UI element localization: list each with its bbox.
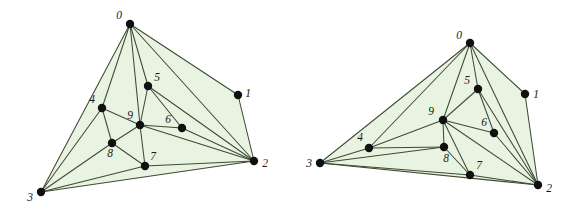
graph-vertex-label-1: 1 <box>245 87 251 99</box>
graph-vertex-label-2: 2 <box>546 182 552 194</box>
graph-vertex-label-1: 1 <box>533 88 539 100</box>
graph-vertex-9 <box>136 121 144 129</box>
graph-vertex-label-8: 8 <box>443 152 449 164</box>
graph-vertex-label-2: 2 <box>262 157 268 169</box>
graph-vertex-5 <box>144 82 152 90</box>
graph-vertex-label-0: 0 <box>116 9 122 21</box>
graph-vertex-label-6: 6 <box>481 116 487 128</box>
graph-vertex-2 <box>250 157 258 165</box>
graph-vertex-label-6: 6 <box>165 113 171 125</box>
right-graph: 0123456789 <box>305 29 552 194</box>
graph-vertex-1 <box>521 90 529 98</box>
graph-vertex-7 <box>141 162 149 170</box>
graph-vertex-label-9: 9 <box>428 105 434 117</box>
graph-vertex-2 <box>534 181 542 189</box>
graph-vertex-0 <box>466 39 474 47</box>
graph-vertex-3 <box>316 159 324 167</box>
graph-vertex-label-4: 4 <box>89 93 95 105</box>
graph-drawing-svg: 01234567890123456789 <box>0 0 581 210</box>
graph-vertex-label-5: 5 <box>154 71 160 83</box>
graph-vertex-label-5: 5 <box>464 74 470 86</box>
graph-vertex-label-0: 0 <box>456 29 462 41</box>
graph-vertex-label-4: 4 <box>357 131 363 143</box>
graph-vertex-9 <box>439 116 447 124</box>
graph-vertex-label-9: 9 <box>127 109 133 121</box>
graph-vertex-6 <box>178 124 186 132</box>
figure-canvas: 01234567890123456789 <box>0 0 581 210</box>
graph-vertex-4 <box>365 144 373 152</box>
graph-vertex-3 <box>37 188 45 196</box>
graph-vertex-0 <box>126 20 134 28</box>
graph-vertex-5 <box>474 85 482 93</box>
graph-vertex-label-3: 3 <box>305 157 312 169</box>
graph-vertex-6 <box>490 129 498 137</box>
graph-vertex-4 <box>98 104 106 112</box>
graph-vertex-label-8: 8 <box>107 147 113 159</box>
graph-vertex-1 <box>234 91 242 99</box>
graph-vertex-8 <box>440 143 448 151</box>
graph-vertex-7 <box>466 171 474 179</box>
left-graph: 0123456789 <box>26 9 268 203</box>
graph-vertex-label-3: 3 <box>26 191 33 203</box>
